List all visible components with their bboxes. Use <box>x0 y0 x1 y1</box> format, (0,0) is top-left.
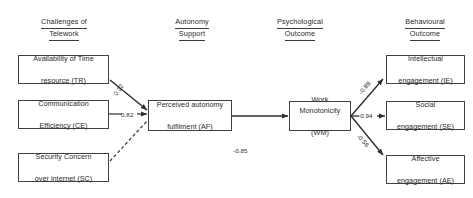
edge-wm-ae <box>351 116 383 155</box>
node-af[interactable]: Perceived autonomy fulfilment (AF) <box>148 100 232 131</box>
node-ce-line2: Efficiency (CE) <box>35 120 92 131</box>
node-af-line1: Perceived autonomy <box>154 99 226 110</box>
edge-label-af-wm: -0.85 <box>233 147 248 154</box>
node-ie-line2: engagement (IE) <box>395 75 455 86</box>
node-ae-line2: engagement (AE) <box>394 175 457 186</box>
edge-label-wm-se: -0.94 <box>358 112 373 119</box>
node-wm-line1: Work Monotonicity <box>293 94 347 116</box>
node-sc[interactable]: Security Concern over internet (SC) <box>18 153 109 182</box>
edge-sc-af <box>110 120 148 161</box>
node-ie-line1: Intellectual <box>395 53 455 64</box>
node-sc-line1: Security Concern <box>32 151 96 162</box>
node-ce[interactable]: Communication Efficiency (CE) <box>18 100 109 129</box>
node-sc-line2: over internet (SC) <box>32 173 96 184</box>
node-tr-line1: Availability of Time <box>30 53 96 64</box>
node-se-line2: engagement (SE) <box>394 121 457 132</box>
node-se[interactable]: Social engagement (SE) <box>386 101 465 130</box>
node-ie[interactable]: Intellectual engagement (IE) <box>386 55 465 84</box>
edge-label-ce-af: 0.82 <box>121 111 133 118</box>
node-ce-line1: Communication <box>35 98 92 109</box>
node-ae[interactable]: Affective engagement (AE) <box>386 155 465 184</box>
node-wm[interactable]: Work Monotonicity (WM) <box>289 101 351 131</box>
node-se-line1: Social <box>394 99 457 110</box>
node-af-line2: fulfilment (AF) <box>154 121 226 132</box>
node-tr-line2: resource (TR) <box>30 75 96 86</box>
path-diagram: Challenges of Telework Autonomy Support … <box>0 0 473 198</box>
node-tr[interactable]: Availability of Time resource (TR) <box>18 55 109 84</box>
node-ae-line1: Affective <box>394 153 457 164</box>
node-wm-line2: (WM) <box>293 127 347 138</box>
